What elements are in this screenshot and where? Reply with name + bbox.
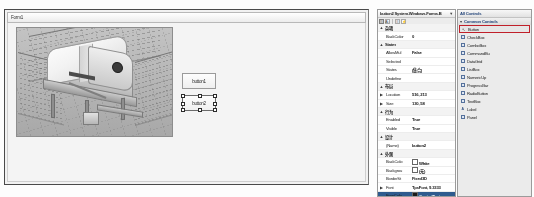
property-row[interactable]: BackColoWhite [378,158,455,166]
control-icon [460,35,465,40]
property-value[interactable]: (集合) [412,67,455,73]
picturebox-3d-render[interactable] [16,27,173,137]
toolbox-item-commandbu[interactable]: CommandBu [458,49,531,57]
property-name: 杂项 [384,25,393,31]
property-value[interactable]: True [412,117,455,122]
toolbox-item-datagrid[interactable]: DataGrid [458,57,531,65]
property-row[interactable]: ForeColoControlText [378,192,455,196]
selection-handle[interactable] [181,102,185,106]
property-row[interactable]: BorderStFixed3D [378,175,455,183]
property-value-text: True [412,117,420,122]
property-category-row[interactable]: ▲布局 [378,83,455,91]
property-value[interactable]: (无) [412,167,455,174]
toolbox-item-textbox[interactable]: TextBox [458,97,531,105]
property-row[interactable]: ▶FontTpsFont, 9.3333 [378,183,455,191]
form-titlebar[interactable]: Form1 [7,12,366,23]
toolbox-item-checkbox[interactable]: CheckBox [458,33,531,41]
toolbox-item-label: Panel [467,115,477,120]
property-value[interactable]: 0 [412,34,455,39]
form-title: Form1 [8,15,23,20]
color-swatch-icon [412,167,418,173]
toolbox-item-panel[interactable]: Panel [458,113,531,121]
property-value-text: (集合) [412,68,422,73]
selection-handle[interactable] [181,108,185,112]
property-value[interactable]: ControlText [412,192,455,196]
properties-grid[interactable]: ▲杂项BackColor0▲StatesAllowMulFalseSelecte… [378,24,455,196]
property-row[interactable]: Undefine [378,74,455,82]
form-button-button2[interactable]: button2 [182,95,216,111]
property-row[interactable]: (Name)button2 [378,141,455,149]
toolbox-item-progressbar[interactable]: ProgressBar [458,81,531,89]
selection-handle[interactable] [213,94,217,98]
form-button-label: button1 [192,79,206,84]
control-icon [460,43,465,48]
toolbox-item-combobox[interactable]: ComboBox [458,41,531,49]
control-icon [460,59,465,64]
property-name: Backgrou [384,168,412,173]
toolbox-item-label[interactable]: ALabel [458,105,531,113]
property-category-row[interactable]: ▲外观 [378,150,455,158]
property-row[interactable]: VisibleTrue [378,125,455,133]
property-row[interactable]: BackColor0 [378,32,455,40]
property-value-text: 0 [412,34,414,39]
machine-leg [51,94,55,119]
color-swatch-icon [412,159,418,165]
toolbox-group-label: Common Controls [464,19,498,24]
selection-handle[interactable] [198,108,202,112]
toolbox-item-list[interactable]: ↖ButtonCheckBoxComboBoxCommandBuDataGrid… [458,25,531,196]
property-category-row[interactable]: ▲行为 [378,108,455,116]
toolbox-item-radiobutton[interactable]: RadioButton [458,89,531,97]
form-button-button1[interactable]: button1 [182,73,216,89]
property-value[interactable]: White [412,159,455,166]
property-value[interactable]: False [412,50,455,55]
property-category-row[interactable]: ▲States [378,41,455,49]
form-client-area[interactable]: button1 button2 [7,23,366,182]
property-value[interactable]: 516, 213 [412,92,455,97]
toolbox-item-numericup[interactable]: NumericUp [458,73,531,81]
property-category-row[interactable]: ▲设计 [378,133,455,141]
control-icon [460,91,465,96]
toolbox-panel: All Controls ▼ Common Controls ↖ButtonCh… [457,9,532,197]
property-name: 设计 [384,134,393,140]
property-row[interactable]: EnabledTrue [378,116,455,124]
selection-handle[interactable] [213,102,217,106]
property-name: 行为 [384,109,393,115]
property-value[interactable]: True [412,126,455,131]
property-row[interactable]: States(集合) [378,66,455,74]
toolbox-item-listbox[interactable]: ListBox [458,65,531,73]
toolbox-item-label: Label [467,107,476,112]
form-button-label: button2 [192,101,206,106]
toolbox-item-label: ListBox [467,67,479,72]
property-value[interactable]: Fixed3D [412,176,455,181]
chevron-down-icon[interactable]: ▼ [449,11,455,16]
property-value[interactable]: TpsFont, 9.3333 [412,185,455,190]
property-value-text: False [412,50,422,55]
toolbox-header[interactable]: All Controls [458,10,531,18]
property-row[interactable]: ▶Size130, 58 [378,100,455,108]
property-name: 外观 [384,151,393,157]
properties-object-selector[interactable]: button2 System.Windows.Forms.B ▼ [378,10,455,18]
properties-window: button2 System.Windows.Forms.B ▼ ☷ A↓ ☰ … [377,9,456,197]
property-value[interactable]: 130, 58 [412,101,455,106]
toolbox-item-label: RadioButton [467,91,488,96]
property-value-text: TpsFont, 9.3333 [412,185,441,190]
toolbox-item-label: ProgressBar [467,83,488,88]
property-row[interactable]: AllowMulFalse [378,49,455,57]
selection-handle[interactable] [181,94,185,98]
property-value[interactable]: button2 [412,143,455,148]
selection-handle[interactable] [213,108,217,112]
selection-handle[interactable] [198,94,202,98]
property-category-row[interactable]: ▲杂项 [378,24,455,32]
property-name: BackColo [384,159,412,164]
property-row[interactable]: Backgrou(无) [378,167,455,175]
form-designer-window: Form1 [4,9,369,185]
toolbox-item-button[interactable]: ↖Button [459,25,530,33]
property-value-text: button2 [412,143,426,148]
property-row[interactable]: ▶Location516, 213 [378,91,455,99]
property-row[interactable]: Selected [378,58,455,66]
property-name: States [384,42,396,47]
property-name: States [384,67,412,72]
machine-port [112,61,123,73]
label-icon: A [460,107,465,112]
machine-cabinet [83,112,99,125]
